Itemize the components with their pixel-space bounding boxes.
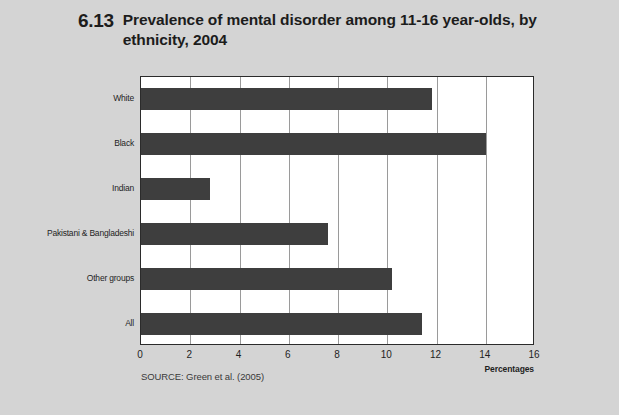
gridline	[338, 77, 339, 344]
gridline	[190, 77, 191, 344]
y-axis-label-white: White	[0, 93, 134, 103]
gridline	[240, 77, 241, 344]
x-tick-4: 4	[236, 349, 242, 360]
figure-title-block: 6.13 Prevalence of mental disorder among…	[78, 10, 598, 50]
bar-white	[141, 88, 432, 110]
x-axis-tick-labels: 0246810121416	[140, 349, 534, 365]
x-tick-6: 6	[285, 349, 291, 360]
bar-fill	[141, 268, 392, 290]
y-axis-label-indian: Indian	[0, 183, 134, 193]
bar-black	[141, 133, 486, 155]
gridline	[437, 77, 438, 344]
x-tick-12: 12	[430, 349, 441, 360]
source-note: SOURCE: Green et al. (2005)	[141, 371, 264, 382]
bar-fill	[141, 178, 210, 200]
bar-other-groups	[141, 268, 392, 290]
y-axis-label-all: All	[0, 318, 134, 328]
x-tick-16: 16	[528, 349, 539, 360]
y-axis-label-black: Black	[0, 138, 134, 148]
page-title: Prevalence of mental disorder among 11-1…	[123, 10, 543, 50]
bar-pakistani-bangladeshi	[141, 223, 328, 245]
bar-all	[141, 313, 422, 335]
gridline	[387, 77, 388, 344]
x-tick-0: 0	[137, 349, 143, 360]
bar-fill	[141, 223, 328, 245]
bar-fill	[141, 313, 422, 335]
figure-number: 6.13	[78, 10, 114, 31]
x-tick-14: 14	[479, 349, 490, 360]
y-axis-label-pakistani-bangladeshi: Pakistani & Bangladeshi	[0, 228, 134, 238]
bar-fill	[141, 133, 486, 155]
y-axis-category-labels: WhiteBlackIndianPakistani & BangladeshiO…	[0, 76, 134, 345]
bar-indian	[141, 178, 210, 200]
bar-fill	[141, 88, 432, 110]
y-axis-label-other-groups: Other groups	[0, 273, 134, 283]
gridline	[289, 77, 290, 344]
x-tick-8: 8	[334, 349, 340, 360]
x-tick-2: 2	[186, 349, 192, 360]
gridline	[486, 77, 487, 344]
bar-chart-plot-area	[140, 76, 534, 345]
x-axis-label: Percentages	[400, 364, 534, 374]
x-tick-10: 10	[381, 349, 392, 360]
